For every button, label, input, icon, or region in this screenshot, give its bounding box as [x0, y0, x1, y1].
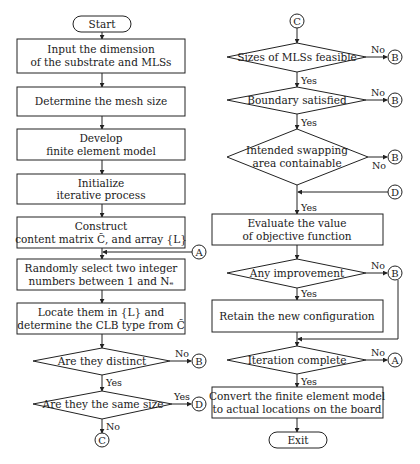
step-line1: Construct: [75, 220, 128, 232]
yes-label: Yes: [300, 117, 317, 128]
connector-label: B: [391, 268, 398, 279]
step-determine-mesh-size: Determine the mesh size: [17, 87, 185, 116]
step-develop-fem: Develop finite element model: [17, 129, 185, 160]
connector-label: B: [195, 356, 202, 367]
yes-label: Yes: [300, 288, 317, 299]
start-label: Start: [89, 18, 117, 30]
step-input-dimension: Input the dimension of the substrate and…: [17, 39, 185, 73]
decision-label-line1: Intended swapping: [246, 144, 348, 156]
step-line2: finite element model: [46, 145, 156, 157]
decision-label-line2: area containable: [252, 157, 341, 169]
step-line2: of the substrate and MLSs: [31, 56, 172, 68]
step-line1: Input the dimension: [47, 43, 155, 55]
start-terminal: Start: [73, 16, 131, 32]
yes-label: Yes: [105, 377, 122, 388]
step-evaluate-objective: Evaluate the value of objective function: [212, 214, 383, 245]
connector-label: B: [391, 52, 398, 63]
yes-label: Yes: [300, 202, 317, 213]
step-retain-configuration: Retain the new configuration: [212, 300, 383, 332]
decision-swapping-area: Intended swapping area containable No B: [227, 129, 402, 185]
connector-label: A: [194, 247, 203, 258]
flowchart: Start Input the dimension of the substra…: [0, 0, 420, 464]
step-line1: Initialize: [78, 177, 125, 189]
step-line2: of objective function: [243, 230, 352, 242]
step-line2: determine the CLB type from C̃: [17, 319, 185, 331]
yes-label: Yes: [300, 75, 317, 86]
no-label: No: [175, 348, 189, 359]
step-line2: to actual locations on the board: [212, 403, 381, 415]
step-line2: content matrix C̃, and array {L}: [15, 233, 187, 246]
step-line2: numbers between 1 and Nₑ: [28, 275, 173, 287]
decision-distinct: Are they distinct No B: [33, 348, 206, 375]
decision-boundary-satisfied: Boundary satisfied No B: [227, 87, 402, 114]
step-line1: Convert the finite element model: [209, 390, 386, 402]
decision-label: Iteration complete: [248, 354, 347, 366]
exit-label: Exit: [287, 434, 309, 446]
yes-label: Yes: [173, 391, 190, 402]
decision-iteration-complete: Iteration complete No A: [227, 346, 402, 374]
decision-label: Any improvement: [249, 267, 345, 279]
decision-label: Sizes of MLSs feasible: [237, 51, 357, 63]
decision-label: Are they the same size: [42, 398, 164, 410]
no-label: No: [371, 87, 385, 98]
no-label: No: [106, 421, 120, 432]
step-line1: Retain the new configuration: [219, 310, 375, 322]
no-label: No: [372, 160, 386, 171]
connector-label: B: [391, 95, 398, 106]
no-label: No: [371, 347, 385, 358]
decision-label: Boundary satisfied: [247, 94, 347, 106]
connector-c-in: C: [290, 14, 304, 28]
step-locate: Locate them in {L} and determine the CLB…: [17, 303, 185, 334]
connector-d-in: D: [298, 185, 402, 199]
no-label: No: [371, 260, 385, 271]
step-line1: Evaluate the value: [247, 217, 346, 229]
connector-label: B: [391, 152, 398, 163]
step-construct-matrix: Construct content matrix C̃, and array {…: [15, 217, 187, 248]
step-random-select: Randomly select two integer numbers betw…: [17, 259, 185, 290]
step-line1: Develop: [79, 132, 122, 144]
decision-label: Are they distinct: [57, 355, 147, 367]
connector-label: C: [293, 16, 301, 27]
decision-sizes-feasible: Sizes of MLSs feasible No B: [227, 43, 402, 72]
exit-terminal: Exit: [269, 432, 327, 448]
connector-label: C: [98, 435, 106, 446]
step-convert-locations: Convert the finite element model to actu…: [209, 387, 386, 418]
decision-same-size: Are they the same size Yes D: [33, 391, 206, 419]
step-line1: Locate them in {L} and: [38, 306, 165, 319]
step-line1: Determine the mesh size: [35, 95, 167, 107]
connector-label: D: [391, 187, 399, 198]
connector-label: A: [390, 355, 399, 366]
step-line1: Randomly select two integer: [25, 262, 179, 274]
step-initialize: Initialize iterative process: [17, 174, 185, 204]
connector-c-out: C: [95, 433, 109, 447]
step-line2: iterative process: [56, 189, 145, 201]
yes-label: Yes: [300, 376, 317, 387]
connector-label: D: [195, 399, 203, 410]
no-label: No: [371, 44, 385, 55]
